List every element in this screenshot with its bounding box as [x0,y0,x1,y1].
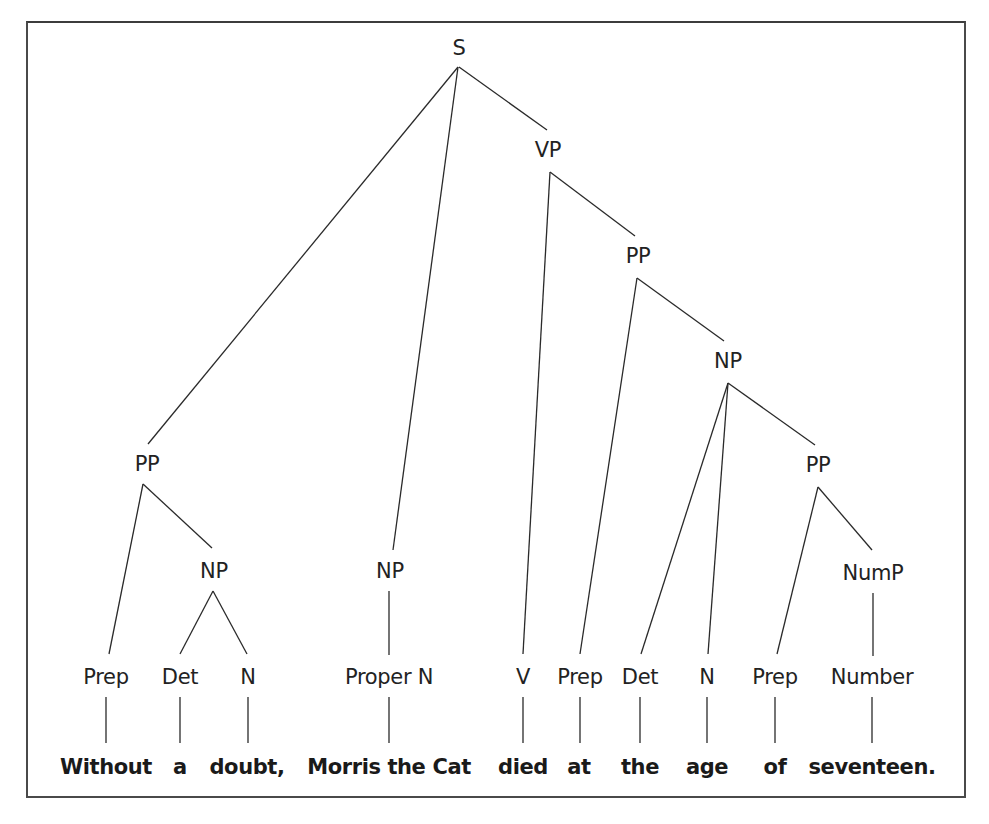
node-np-subject: NP [376,561,404,582]
tree-edge [180,591,213,654]
pos-label: Det [622,667,658,688]
tree-edge [143,484,212,548]
pos-label: Prep [752,667,798,688]
node-np-doubt: NP [200,561,228,582]
word: age [686,757,728,778]
word: doubt, [209,757,284,778]
word: the [621,757,659,778]
pos-label: V [516,667,530,688]
tree-edge [109,484,143,654]
tree-edge [637,278,724,341]
tree-edge [550,172,635,236]
tree-edge [818,487,872,550]
node-nump: NumP [843,563,904,584]
tree-edge [580,278,637,654]
pos-label: Prep [83,667,129,688]
tree-edge [393,67,458,550]
node-pp-adverbial: PP [135,454,160,475]
tree-edge [459,67,547,130]
word: Without [60,757,152,778]
pos-label: Proper N [345,667,433,688]
word: Morris the Cat [307,757,471,778]
pos-label: Det [162,667,198,688]
word: of [764,757,787,778]
node-s: S [452,38,465,59]
word: a [173,757,187,778]
tree-edge [641,383,728,654]
tree-edges [0,0,989,824]
tree-edge [708,383,728,654]
pos-label: N [699,667,714,688]
pos-label: N [240,667,255,688]
node-pp-vp: PP [626,246,651,267]
tree-edge [777,487,818,654]
word: died [498,757,548,778]
node-np-object: NP [714,351,742,372]
tree-edge [148,67,458,444]
node-vp: VP [535,140,561,161]
pos-label: Number [831,667,914,688]
word: seventeen. [808,757,935,778]
node-pp-of: PP [806,455,831,476]
pos-label: Prep [557,667,603,688]
word: at [567,757,590,778]
tree-edge [523,172,550,654]
tree-edge [728,383,815,445]
tree-edge [213,591,247,654]
